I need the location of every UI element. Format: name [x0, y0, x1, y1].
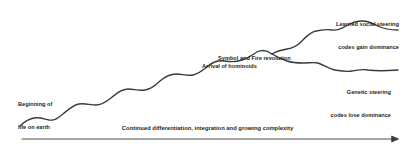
- annotation-beginning-of-life-on-earth: Beginning of life on earth: [18, 86, 52, 147]
- annotation-learned-social-steering: Learned social steering codes gain domin…: [336, 6, 399, 67]
- annotation-learned-social-line2: codes gain dominance: [336, 44, 399, 52]
- evolution-complexity-diagram: Learned social steering codes gain domin…: [0, 0, 415, 153]
- axis-caption: Continued differentiation, integration a…: [0, 125, 415, 131]
- annotation-arrival-of-hominoids: Arrival of hominoids: [202, 48, 257, 86]
- annotation-beginning-line1: Beginning of: [18, 101, 52, 109]
- annotation-learned-social-line1: Learned social steering: [336, 21, 399, 29]
- annotation-genetic-line2: codes lose dominance: [331, 112, 391, 120]
- axis-arrow-head: [392, 136, 399, 142]
- annotation-arrival-line1: Arrival of hominoids: [202, 63, 257, 71]
- annotation-genetic-line1: Genetic steering: [331, 89, 391, 97]
